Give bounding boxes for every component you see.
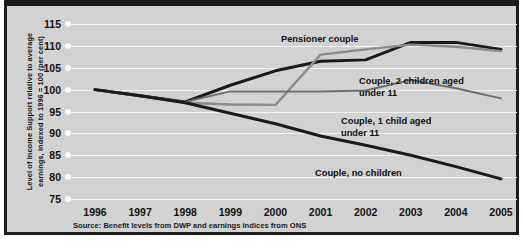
x-axis-tick-label: 2000 — [264, 206, 287, 218]
y-axis-tick-label: 75 — [49, 193, 61, 205]
x-axis-tick-label: 1999 — [219, 206, 242, 218]
y-axis-label-line1: Level of Income Support relative to aver… — [25, 24, 36, 199]
y-axis-tick-label: 115 — [44, 18, 61, 30]
gridline — [69, 199, 517, 200]
x-axis-tick-label: 2003 — [399, 206, 422, 218]
x-axis-tick-label: 1998 — [174, 206, 197, 218]
y-axis-tick-label: 95 — [49, 106, 61, 118]
y-axis-tick-label: 110 — [44, 40, 61, 52]
y-axis-tick-label: 80 — [49, 171, 61, 183]
series-annotation-label: Pensioner couple — [281, 34, 359, 46]
series-annotation-label: Couple, 2 children aged under 11 — [359, 76, 464, 99]
x-axis-tick-label: 1997 — [128, 206, 151, 218]
chart-figure: Level of Income Support relative to aver… — [0, 0, 523, 251]
series-annotation-label: Couple, 1 child aged under 11 — [341, 116, 431, 139]
chart-frame: Level of Income Support relative to aver… — [4, 3, 519, 235]
series-annotation-label: Couple, no children — [315, 168, 402, 180]
x-axis-tick-label: 2001 — [309, 206, 332, 218]
y-axis-tick-label: 100 — [43, 84, 61, 96]
x-axis-tick-label: 2002 — [354, 206, 377, 218]
series-line — [95, 90, 501, 179]
source-note: Source: Benefit levels from DWP and earn… — [73, 221, 306, 230]
series-lines — [69, 24, 517, 199]
y-axis-tick-label: 85 — [49, 149, 61, 161]
plot-area: Level of Income Support relative to aver… — [69, 24, 517, 199]
x-axis-tick-label: 2004 — [444, 206, 467, 218]
x-axis-tick-label: 2005 — [489, 206, 512, 218]
x-axis-tick-label: 1996 — [83, 206, 106, 218]
y-axis-tick-label: 90 — [49, 127, 61, 139]
y-axis-tick-label: 105 — [43, 62, 61, 74]
